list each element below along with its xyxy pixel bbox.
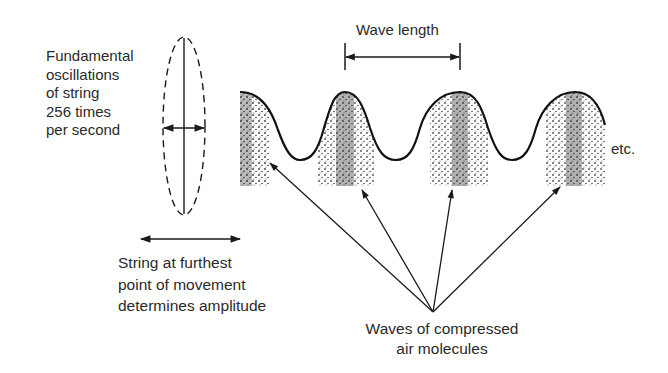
etc-label: etc. <box>611 140 635 159</box>
label-line: String at furthest <box>118 252 266 274</box>
compressed-air-label: Waves of compressed air molecules <box>366 319 519 359</box>
label-line: 256 times <box>46 103 134 122</box>
fundamental-oscillations-label: Fundamental oscillations of string 256 t… <box>46 47 134 140</box>
pointer-arrow-2 <box>362 190 433 312</box>
wavelength-marker <box>345 43 460 70</box>
wavelength-label: Wave length <box>356 21 439 40</box>
amplitude-label: String at furthest point of movement det… <box>118 252 266 317</box>
label-line: point of movement <box>118 274 266 296</box>
pointer-arrow-3 <box>433 190 452 312</box>
label-line: per second <box>46 121 134 140</box>
vibrating-string-group <box>163 37 205 215</box>
pointer-arrow-4 <box>433 187 560 312</box>
label-line: Fundamental <box>46 47 134 66</box>
label-line: air molecules <box>366 339 519 359</box>
label-line: determines amplitude <box>118 295 266 317</box>
label-line: of string <box>46 84 134 103</box>
label-line: oscillations <box>46 66 134 85</box>
label-line: Waves of compressed <box>366 319 519 339</box>
pointer-arrows <box>270 163 560 312</box>
